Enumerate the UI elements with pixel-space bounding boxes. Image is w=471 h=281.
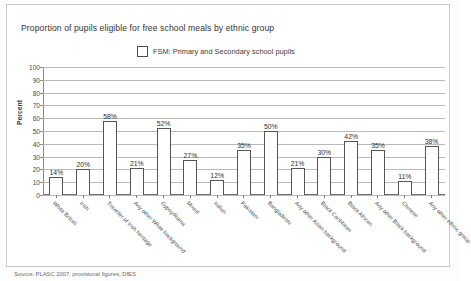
bar-value-label: 35% xyxy=(371,142,385,149)
x-axis-label-slot: Traveller of Irish heritage xyxy=(97,198,124,268)
legend-label-fsm: FSM: Primary and Secondary school pupils xyxy=(153,47,295,56)
bar[interactable] xyxy=(49,177,63,195)
x-axis-category-label: Any other ethnic group xyxy=(427,200,471,244)
legend-swatch-fsm xyxy=(137,46,148,57)
x-axis-label-slot: Any other Black background xyxy=(365,198,392,268)
bar-value-label: 58% xyxy=(103,113,117,120)
x-axis-label-slot: Irish xyxy=(70,198,97,268)
bar-value-label: 52% xyxy=(157,120,171,127)
y-axis-tick-label: 60 xyxy=(33,115,40,122)
bar-value-label: 30% xyxy=(318,149,332,156)
bar[interactable] xyxy=(76,169,90,195)
bar-slot: 21% xyxy=(284,67,311,195)
x-axis-label-slot: Black African xyxy=(338,198,365,268)
y-axis-tick-label: 70 xyxy=(33,102,40,109)
bar-value-label: 50% xyxy=(264,123,278,130)
bar-value-label: 20% xyxy=(76,161,90,168)
bar-value-label: 21% xyxy=(130,160,144,167)
bar-value-label: 35% xyxy=(237,142,251,149)
bar[interactable] xyxy=(130,168,144,195)
bar-value-label: 11% xyxy=(398,173,411,180)
bar[interactable] xyxy=(157,128,171,195)
y-axis-label: Percent xyxy=(16,100,23,125)
bar-slot: 14% xyxy=(43,67,70,195)
bar-series: 14%20%58%21%52%27%12%35%50%21%30%42%35%1… xyxy=(43,67,445,195)
bar-slot: 38% xyxy=(418,67,445,195)
x-axis-label-slot: Bangladeshi xyxy=(257,198,284,268)
chart-title: Proportion of pupils eligible for free s… xyxy=(21,23,274,33)
y-axis-tick-label: 80 xyxy=(33,89,40,96)
bar[interactable] xyxy=(425,146,439,195)
bar-value-label: 27% xyxy=(184,152,198,159)
plot-area: 1009080706050403020100 14%20%58%21%52%27… xyxy=(43,67,445,195)
x-axis-category-label: Indian xyxy=(213,200,228,215)
y-axis-tick-label: 50 xyxy=(33,128,40,135)
x-axis-label-slot: Indian xyxy=(204,198,231,268)
chart-legend: FSM: Primary and Secondary school pupils xyxy=(137,46,295,57)
bar-value-label: 42% xyxy=(344,133,358,140)
bar[interactable] xyxy=(183,160,197,195)
source-note: Source: PLASC 2007, provisional figures,… xyxy=(14,271,136,277)
y-axis-tick-label: 10 xyxy=(33,179,40,186)
bar-slot: 27% xyxy=(177,67,204,195)
x-axis-label-slot: Black Caribbean xyxy=(311,198,338,268)
bar[interactable] xyxy=(210,180,224,195)
bar[interactable] xyxy=(237,150,251,195)
x-axis-category-label: Irish xyxy=(79,200,91,212)
bar-slot: 11% xyxy=(391,67,418,195)
bar-slot: 50% xyxy=(257,67,284,195)
bar-slot: 20% xyxy=(70,67,97,195)
bar-value-label: 38% xyxy=(425,138,439,145)
x-axis-label-slot: Chinese xyxy=(391,198,418,268)
bar-slot: 58% xyxy=(97,67,124,195)
bar-slot: 21% xyxy=(123,67,150,195)
x-axis-label-slot: Mixed xyxy=(177,198,204,268)
bar[interactable] xyxy=(344,141,358,195)
bar[interactable] xyxy=(371,150,385,195)
bar-slot: 52% xyxy=(150,67,177,195)
bar[interactable] xyxy=(398,181,412,195)
bar[interactable] xyxy=(264,131,278,195)
x-axis-category-label: Chinese xyxy=(401,200,420,219)
chart-frame: Proportion of pupils eligible for free s… xyxy=(6,4,450,267)
x-axis-label-slot: Any other ethnic group xyxy=(418,198,445,268)
bar-slot: 30% xyxy=(311,67,338,195)
x-axis-label-slot: White British xyxy=(43,198,70,268)
y-axis-tick-label: 20 xyxy=(33,166,40,173)
x-axis-label-slot: Any other White background xyxy=(123,198,150,268)
y-axis-tick-label: 40 xyxy=(33,140,40,147)
bar[interactable] xyxy=(103,121,117,195)
x-axis-labels: White BritishIrishTraveller of Irish her… xyxy=(43,198,445,268)
y-axis-tick-label: 30 xyxy=(33,153,40,160)
y-axis-tick-label: 100 xyxy=(29,64,40,71)
x-axis-category-label: Mixed xyxy=(186,200,201,215)
bar-slot: 35% xyxy=(365,67,392,195)
bar-value-label: 14% xyxy=(50,169,64,176)
bar-slot: 12% xyxy=(204,67,231,195)
bar[interactable] xyxy=(291,168,305,195)
bar-value-label: 21% xyxy=(291,160,305,167)
x-axis-label-slot: Pakistani xyxy=(231,198,258,268)
x-axis-label-slot: Gypsy/Roma xyxy=(150,198,177,268)
bar-slot: 35% xyxy=(231,67,258,195)
x-axis-label-slot: Any other Asian background xyxy=(284,198,311,268)
y-axis-tick-label: 90 xyxy=(33,76,40,83)
bar-value-label: 12% xyxy=(210,172,224,179)
bar-slot: 42% xyxy=(338,67,365,195)
bar[interactable] xyxy=(317,157,331,195)
